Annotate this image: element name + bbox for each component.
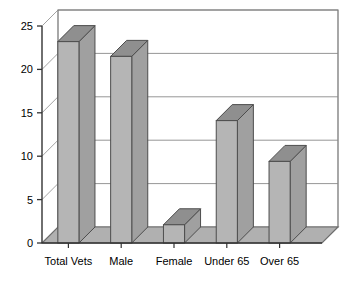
value-axis-tick-label: 20 (21, 63, 33, 75)
bar-front-face (58, 42, 79, 243)
bar-chart-figure: 0510152025 Total VetsMaleFemaleUnder 65O… (0, 0, 357, 293)
bar-front-face (216, 121, 237, 243)
value-axis-tick-label: 5 (27, 194, 33, 206)
category-axis-tick-label: Over 65 (260, 255, 299, 267)
bar-side-face (237, 105, 253, 243)
bar-column (269, 145, 306, 243)
value-axis-tick-label: 0 (27, 237, 33, 249)
category-axis-tick-labels: Total VetsMaleFemaleUnder 65Over 65 (45, 255, 300, 267)
value-axis-tick-label: 15 (21, 107, 33, 119)
bar-side-face (79, 26, 95, 243)
bar-column (111, 40, 148, 243)
bar-column (58, 26, 95, 243)
depth-connector-line (42, 53, 58, 69)
bar-front-face (111, 56, 132, 243)
value-axis-tick-label: 10 (21, 150, 33, 162)
bar-side-face (290, 145, 306, 243)
value-axis-ticks (37, 26, 42, 243)
value-axis-tick-labels: 0510152025 (21, 20, 33, 249)
depth-connector-line (42, 97, 58, 113)
bar-side-face (132, 40, 148, 243)
category-axis-tick-label: Male (109, 255, 133, 267)
depth-connector-line (42, 184, 58, 200)
depth-connector-lines (42, 10, 58, 200)
depth-connector-line (42, 140, 58, 156)
category-axis-tick-label: Under 65 (204, 255, 249, 267)
bar-front-face (163, 225, 184, 243)
category-axis-tick-label: Female (156, 255, 193, 267)
value-axis-tick-label: 25 (21, 20, 33, 32)
category-axis-tick-label: Total Vets (45, 255, 93, 267)
bar-column (216, 105, 253, 243)
bar-front-face (269, 161, 290, 243)
depth-connector-line (42, 10, 58, 26)
category-axis-ticks (68, 243, 279, 248)
chart-canvas: 0510152025 Total VetsMaleFemaleUnder 65O… (0, 0, 357, 293)
